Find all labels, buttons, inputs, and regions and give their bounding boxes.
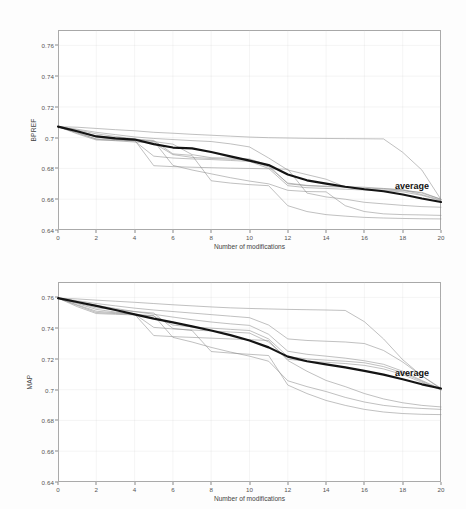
average-series-label: average [395, 181, 429, 191]
x-axis-label-top: Number of modifications [214, 243, 285, 250]
y-tick-mark [55, 389, 58, 390]
x-tick-mark [326, 482, 327, 485]
y-tick-mark [55, 328, 58, 329]
x-tick-mark [211, 230, 212, 233]
average-series-label: average [395, 368, 429, 378]
y-tick-label: 0.64 [42, 227, 54, 234]
x-tick-label: 12 [284, 234, 291, 241]
x-tick-mark [58, 482, 59, 485]
series-line [58, 298, 441, 390]
x-tick-mark [96, 230, 97, 233]
figure-container: 0.640.660.680.70.720.740.76 024681012141… [0, 0, 466, 509]
y-tick-mark [55, 76, 58, 77]
x-tick-label: 0 [56, 486, 59, 493]
x-tick-mark [211, 482, 212, 485]
x-tick-mark [249, 482, 250, 485]
x-tick-label: 14 [323, 234, 330, 241]
y-tick-mark [55, 420, 58, 421]
y-tick-mark [55, 137, 58, 138]
x-tick-mark [441, 230, 442, 233]
y-tick-mark [55, 168, 58, 169]
y-tick-mark [55, 297, 58, 298]
y-tick-label: 0.68 [42, 417, 54, 424]
plot-area-top: 0.640.660.680.70.720.740.76 024681012141… [58, 30, 441, 230]
series-lines-top [58, 30, 441, 230]
x-tick-label: 6 [171, 234, 174, 241]
series-line [58, 127, 441, 202]
y-tick-label: 0.66 [42, 196, 54, 203]
series-lines-bottom [58, 282, 441, 482]
x-tick-mark [96, 482, 97, 485]
y-tick-label: 0.64 [42, 479, 54, 486]
y-tick-mark [55, 106, 58, 107]
x-tick-label: 18 [399, 486, 406, 493]
x-tick-mark [364, 482, 365, 485]
x-tick-mark [134, 230, 135, 233]
x-tick-label: 0 [56, 234, 59, 241]
x-tick-mark [402, 230, 403, 233]
series-line [58, 298, 441, 388]
y-tick-label: 0.76 [42, 42, 54, 49]
x-tick-label: 6 [171, 486, 174, 493]
y-tick-label: 0.66 [42, 448, 54, 455]
x-tick-mark [249, 230, 250, 233]
series-line [58, 127, 441, 216]
y-tick-label: 0.74 [42, 73, 54, 80]
x-tick-label: 8 [209, 234, 212, 241]
x-tick-label: 14 [323, 486, 330, 493]
chart-panel-top: 0.640.660.680.70.720.740.76 024681012141… [0, 0, 466, 255]
x-tick-mark [326, 230, 327, 233]
y-tick-label: 0.74 [42, 325, 54, 332]
x-tick-mark [134, 482, 135, 485]
x-tick-label: 20 [438, 486, 445, 493]
x-tick-label: 10 [246, 234, 253, 241]
y-tick-label: 0.72 [42, 103, 54, 110]
y-tick-mark [55, 199, 58, 200]
y-axis-label-bottom: MAP [26, 375, 33, 390]
x-tick-mark [441, 482, 442, 485]
x-tick-label: 10 [246, 486, 253, 493]
plot-area-bottom: 0.640.660.680.70.720.740.76 024681012141… [58, 282, 441, 482]
x-tick-label: 4 [133, 486, 136, 493]
x-tick-mark [402, 482, 403, 485]
x-tick-label: 12 [284, 486, 291, 493]
x-tick-mark [58, 230, 59, 233]
x-tick-label: 18 [399, 234, 406, 241]
y-tick-mark [55, 451, 58, 452]
x-tick-label: 16 [361, 234, 368, 241]
x-tick-mark [172, 230, 173, 233]
chart-panel-bottom: 0.640.660.680.70.720.740.76 024681012141… [0, 255, 466, 509]
x-tick-mark [364, 230, 365, 233]
x-tick-mark [287, 482, 288, 485]
y-tick-mark [55, 45, 58, 46]
x-tick-label: 4 [133, 234, 136, 241]
y-tick-label: 0.7 [45, 386, 54, 393]
x-tick-label: 8 [209, 486, 212, 493]
x-tick-label: 2 [95, 234, 98, 241]
x-tick-label: 2 [95, 486, 98, 493]
x-tick-label: 20 [438, 234, 445, 241]
y-tick-mark [55, 358, 58, 359]
y-tick-label: 0.76 [42, 294, 54, 301]
x-tick-mark [172, 482, 173, 485]
y-tick-label: 0.72 [42, 355, 54, 362]
x-tick-mark [287, 230, 288, 233]
series-line [58, 298, 441, 409]
x-tick-label: 16 [361, 486, 368, 493]
x-axis-label-bottom: Number of modifications [214, 495, 285, 502]
y-axis-label-top: BPREF [30, 119, 37, 142]
y-tick-label: 0.68 [42, 165, 54, 172]
y-tick-label: 0.7 [45, 134, 54, 141]
